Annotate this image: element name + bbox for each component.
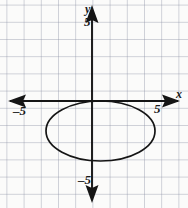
x-axis-tick-label-positive-5: 5 (154, 102, 161, 115)
x-axis-label: x (176, 88, 182, 100)
y-axis-tick-label-positive-5: 5 (84, 15, 91, 28)
x-axis-tick-label-negative-5: –5 (13, 104, 26, 117)
y-axis-tick-label-negative-5: –5 (78, 173, 91, 186)
coordinate-plane-figure: y x 5 –5 5 –5 (0, 0, 188, 208)
